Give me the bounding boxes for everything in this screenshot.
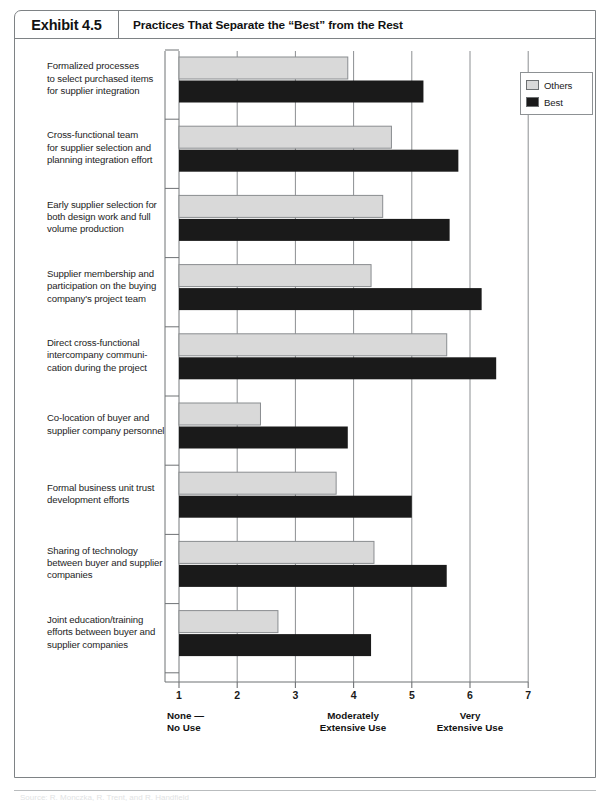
axis-caption-line: None —: [167, 710, 204, 722]
bar-best-3: [179, 288, 482, 310]
bar-others-2: [179, 195, 383, 217]
bar-best-4: [179, 357, 496, 379]
exhibit-number: Exhibit 4.5: [31, 17, 101, 33]
exhibit-title-cell: Practices That Separate the “Best” from …: [119, 11, 595, 38]
bar-others-5: [179, 403, 260, 425]
x-tick-label-4: 4: [351, 689, 357, 701]
bar-others-7: [179, 541, 374, 563]
legend-swatch-best: [526, 97, 539, 107]
legend-item-others: Others: [526, 78, 586, 92]
axis-caption-line: Extensive Use: [437, 722, 503, 734]
chart-legend: OthersBest: [520, 72, 593, 115]
bar-best-5: [179, 427, 348, 449]
x-tick-label-2: 2: [234, 689, 240, 701]
x-tick-label-6: 6: [467, 689, 473, 701]
bar-best-7: [179, 565, 447, 587]
axis-caption-line: Extensive Use: [320, 722, 386, 734]
axis-caption-line: No Use: [167, 722, 204, 734]
axis-caption-none-no-use: None —No Use: [167, 710, 204, 735]
bar-others-0: [179, 57, 348, 79]
source-text: Source: R. Monczka, R. Trent, and R. Han…: [14, 791, 596, 803]
x-tick-label-5: 5: [409, 689, 415, 701]
bar-best-1: [179, 150, 458, 172]
exhibit-title: Practices That Separate the “Best” from …: [133, 18, 403, 32]
exhibit-number-cell: Exhibit 4.5: [15, 11, 119, 38]
bar-best-6: [179, 496, 412, 518]
bar-others-3: [179, 265, 371, 287]
bar-best-0: [179, 81, 423, 103]
exhibit-frame: Exhibit 4.5 Practices That Separate the …: [14, 10, 596, 778]
bar-best-2: [179, 219, 450, 241]
bar-chart-plot: [15, 39, 595, 778]
bar-best-8: [179, 634, 371, 656]
bar-others-8: [179, 611, 278, 633]
source-strip: Source: R. Monczka, R. Trent, and R. Han…: [14, 790, 596, 803]
axis-caption-moderately-extensive-use: ModeratelyExtensive Use: [320, 710, 386, 735]
bar-others-6: [179, 472, 336, 494]
x-tick-label-3: 3: [292, 689, 298, 701]
legend-label-others: Others: [544, 80, 572, 91]
chart-area: Formalized processesto select purchased …: [15, 39, 595, 778]
bar-others-4: [179, 334, 447, 356]
x-tick-label-1: 1: [176, 689, 182, 701]
x-tick-label-7: 7: [525, 689, 531, 701]
legend-swatch-others: [526, 80, 539, 90]
legend-item-best: Best: [526, 95, 586, 109]
axis-caption-very-extensive-use: VeryExtensive Use: [437, 710, 503, 735]
legend-label-best: Best: [544, 97, 563, 108]
bar-others-1: [179, 126, 391, 148]
exhibit-header: Exhibit 4.5 Practices That Separate the …: [15, 11, 595, 39]
axis-caption-line: Very: [437, 710, 503, 722]
axis-caption-line: Moderately: [320, 710, 386, 722]
